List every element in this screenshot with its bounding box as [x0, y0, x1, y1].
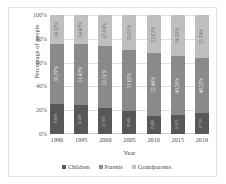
bar-label-parents-2015: 49.30%	[175, 77, 180, 93]
y-axis-tick-0: 0%	[39, 131, 47, 137]
bar-segment-parents-2010[interactable]: 52.48%	[147, 53, 161, 115]
bar-label-parents-2019: 46.53%	[199, 77, 204, 93]
bar-segment-parents-1990[interactable]: 50.77%	[50, 44, 64, 104]
bar-segment-children-2000[interactable]: 21.55%	[98, 108, 112, 134]
x-axis-tick-labels: 1990199520002005201020152019	[50, 136, 209, 143]
bar-column-2000[interactable]: 25.94%52.51%21.55%	[98, 15, 112, 134]
y-axis-tick-60: 60%	[36, 60, 47, 66]
bar-segment-parents-2019[interactable]: 46.53%	[195, 58, 209, 113]
y-axis-tick-labels: 0%20%40%60%80%100%	[21, 15, 47, 134]
x-axis-tick-1995: 1995	[74, 136, 88, 143]
x-axis-tick-2005: 2005	[122, 136, 136, 143]
x-axis-tick-2015: 2015	[171, 136, 185, 143]
bar-segment-children-2005[interactable]: 19.34%	[122, 111, 136, 134]
chart-frame: Percentage of people 0%20%40%60%80%100% …	[8, 7, 217, 177]
bar-label-grandparents-1995: 24.43%	[79, 22, 84, 38]
bar-segment-children-2010[interactable]: 15.49%	[147, 116, 161, 134]
bar-segment-parents-2000[interactable]: 52.51%	[98, 46, 112, 108]
bar-segment-children-1990[interactable]: 25.06%	[50, 104, 64, 134]
bar-segment-grandparents-1995[interactable]: 24.43%	[74, 15, 88, 44]
chart-root: Percentage of people 0%20%40%60%80%100% …	[0, 0, 226, 184]
bar-column-2010[interactable]: 32.03%52.48%15.49%	[147, 15, 161, 134]
bar-segment-grandparents-1990[interactable]: 24.17%	[50, 15, 64, 44]
bar-label-grandparents-1990: 24.17%	[54, 22, 59, 38]
bar-label-children-1995: 24.14%	[80, 115, 83, 125]
y-axis-tick-40: 40%	[36, 83, 47, 89]
bar-segment-children-1995[interactable]: 24.14%	[74, 105, 88, 134]
bar-segment-grandparents-2015[interactable]: 34.39%	[171, 15, 185, 56]
bar-label-parents-2000: 52.51%	[103, 69, 108, 85]
bar-segment-parents-2015[interactable]: 49.30%	[171, 56, 185, 115]
bar-column-1995[interactable]: 24.43%51.43%24.14%	[74, 15, 88, 134]
x-axis-tick-2000: 2000	[98, 136, 112, 143]
bar-label-parents-1995: 51.43%	[79, 67, 84, 83]
x-axis-tick-2019: 2019	[195, 136, 209, 143]
bar-column-2015[interactable]: 34.39%49.30%16.31%	[171, 15, 185, 134]
legend-item-children[interactable]: Children	[62, 163, 90, 170]
bar-label-grandparents-2000: 25.94%	[103, 23, 108, 39]
y-axis-tick-20: 20%	[36, 107, 47, 113]
x-axis-tick-1990: 1990	[50, 136, 64, 143]
bar-label-children-2015: 16.31%	[176, 119, 179, 129]
bar-label-children-2019: 17.73%	[200, 119, 203, 129]
bar-label-children-2000: 21.55%	[104, 116, 107, 126]
bar-label-children-2010: 15.49%	[152, 120, 155, 130]
bar-column-1990[interactable]: 24.17%50.77%25.06%	[50, 15, 64, 134]
legend-item-grandparents[interactable]: Grandparents	[132, 163, 171, 170]
bar-label-parents-2010: 52.48%	[151, 77, 156, 93]
bar-segment-children-2015[interactable]: 16.31%	[171, 115, 185, 134]
bar-label-children-2005: 19.34%	[128, 118, 131, 128]
legend-item-parents[interactable]: Parents	[99, 163, 123, 170]
bar-label-grandparents-2010: 32.03%	[151, 26, 156, 42]
bar-column-2019[interactable]: 35.74%46.53%17.73%	[195, 15, 209, 134]
bar-series-group: 24.17%50.77%25.06%24.43%51.43%24.14%25.9…	[50, 15, 209, 134]
bar-segment-grandparents-2000[interactable]: 25.94%	[98, 15, 112, 46]
bar-label-grandparents-2019: 35.74%	[199, 28, 204, 44]
legend-swatch-icon-parents	[99, 165, 103, 169]
bar-segment-grandparents-2005[interactable]: 29.03%	[122, 15, 136, 50]
bar-segment-grandparents-2010[interactable]: 32.03%	[147, 15, 161, 53]
bar-label-grandparents-2005: 29.03%	[127, 24, 132, 40]
bar-label-children-1990: 25.06%	[55, 114, 58, 124]
bar-label-parents-1990: 50.77%	[54, 66, 59, 82]
y-axis-tick-80: 80%	[36, 36, 47, 42]
chart-legend: ChildrenParentsGrandparents	[29, 163, 204, 170]
y-axis-tick-100: 100%	[33, 12, 47, 18]
legend-label-parents: Parents	[105, 163, 123, 170]
x-axis-title: Year	[50, 149, 209, 156]
legend-label-children: Children	[68, 163, 90, 170]
bar-segment-parents-2005[interactable]: 51.63%	[122, 50, 136, 111]
plot-area: 24.17%50.77%25.06%24.43%51.43%24.14%25.9…	[50, 15, 209, 134]
legend-swatch-icon-grandparents	[132, 165, 136, 169]
bar-segment-grandparents-2019[interactable]: 35.74%	[195, 15, 209, 58]
x-axis-tick-2010: 2010	[147, 136, 161, 143]
bar-label-parents-2005: 51.63%	[127, 72, 132, 88]
legend-label-grandparents: Grandparents	[138, 163, 171, 170]
bar-segment-children-2019[interactable]: 17.73%	[195, 113, 209, 134]
bar-segment-parents-1995[interactable]: 51.43%	[74, 44, 88, 105]
bar-label-grandparents-2015: 34.39%	[175, 28, 180, 44]
legend-swatch-icon-children	[62, 165, 66, 169]
bar-column-2005[interactable]: 29.03%51.63%19.34%	[122, 15, 136, 134]
